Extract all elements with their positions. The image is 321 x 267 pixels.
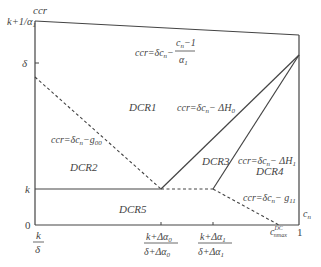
eq-g11: ccr=δcn− g11	[243, 192, 296, 205]
eq-h0: ccr=δcn− ΔH0	[177, 102, 235, 115]
region-dcr3: DCR3	[201, 155, 230, 167]
region-dcr2: DCR2	[69, 161, 98, 173]
svg-text:k+Δα0: k+Δα0	[146, 231, 172, 244]
region-diagram: ccr cn k+1/α1 δ k 0 k δ k+Δα0 δ+Δα0 k+Δα…	[0, 0, 321, 267]
eq-g00: ccr=δcn−g00	[51, 134, 102, 147]
svg-text:δ+Δα0: δ+Δα0	[144, 246, 171, 259]
svg-text:α1: α1	[179, 54, 188, 67]
y-tick-k: k	[25, 183, 31, 195]
y-axis-label: ccr	[33, 4, 48, 16]
x-tick-k-delta: k δ	[33, 229, 44, 255]
eq-h1: ccr=δcn− ΔH1	[238, 155, 296, 168]
svg-text:ccr=δcn−: ccr=δcn−	[135, 47, 174, 60]
y-tick-delta: δ	[22, 57, 28, 69]
x-tick-alpha1: k+Δα1 δ+Δα1	[198, 231, 232, 259]
x-axis-label: cn	[303, 208, 311, 221]
y-tick-k1alpha: k+1/α1	[7, 16, 36, 29]
y-tick-zero: 0	[25, 219, 31, 231]
region-dcr5: DCR5	[118, 203, 147, 215]
region-dcr1: DCR1	[128, 101, 157, 113]
eq-top: ccr=δcn− cn−1 α1	[135, 37, 196, 67]
x-tick-one: 1	[297, 226, 303, 238]
top-boundary	[35, 21, 299, 35]
svg-text:k: k	[36, 229, 42, 241]
svg-text:k+Δα1: k+Δα1	[200, 231, 226, 244]
x-tick-alpha0: k+Δα0 δ+Δα0	[144, 231, 178, 259]
g00-line	[35, 77, 161, 189]
svg-text:δ+Δα1: δ+Δα1	[198, 246, 224, 259]
x-tick-cnmax: cDCnmax	[270, 225, 287, 238]
svg-text:δ: δ	[35, 243, 41, 255]
svg-text:cn−1: cn−1	[176, 37, 196, 50]
